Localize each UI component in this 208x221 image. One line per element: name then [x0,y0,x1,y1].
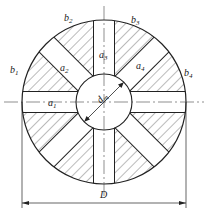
label-b4: b4 [184,67,193,80]
label-dm: dm [94,90,110,106]
label-b2: b2 [64,12,73,25]
label-b1: b1 [10,64,19,77]
slotted-disc-diagram: a1 a2 a3 a4 b1 b2 b3 b4 dm D [0,0,208,221]
label-D: D [99,189,108,200]
